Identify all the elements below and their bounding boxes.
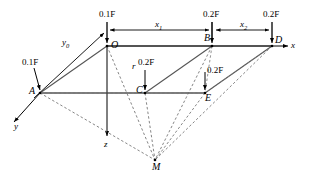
y-axis bbox=[14, 93, 40, 122]
point-label-D: D bbox=[275, 35, 282, 45]
dimension-label-x2-sub: 2 bbox=[244, 24, 247, 31]
depth-edge-group bbox=[40, 46, 272, 93]
apex-line-E-M bbox=[155, 93, 205, 160]
dimension-label-y0: y0 bbox=[62, 38, 69, 49]
node-dot-O bbox=[106, 45, 109, 48]
node-dot-C bbox=[144, 92, 147, 95]
load-arrow-group bbox=[34, 22, 272, 90]
axis-label-z: z bbox=[104, 140, 108, 149]
point-label-B: B bbox=[204, 33, 210, 43]
dimension-label-x1-sub: 1 bbox=[159, 24, 162, 31]
node-dot-group bbox=[39, 45, 274, 162]
point-label-A: A bbox=[29, 86, 35, 96]
load-diagram-figure: O B D A C E M 0.1F 0.2F 0.2F 0.1F 0.2F 0… bbox=[0, 0, 309, 177]
apex-line-B-M bbox=[155, 46, 212, 160]
load-label-O: 0.1F bbox=[99, 10, 115, 19]
dimension-label-y0-sub: 0 bbox=[66, 42, 69, 49]
axis-label-y: y bbox=[14, 122, 18, 131]
load-label-E: 0.2F bbox=[207, 66, 223, 75]
node-dot-B bbox=[211, 45, 214, 48]
point-label-M: M bbox=[152, 162, 160, 172]
point-label-E: E bbox=[205, 93, 211, 103]
load-label-A: 0.1F bbox=[22, 58, 38, 67]
apex-line-group bbox=[40, 46, 272, 160]
point-label-C: C bbox=[136, 85, 143, 95]
apex-line-C-M bbox=[145, 93, 155, 160]
load-label-D: 0.2F bbox=[263, 10, 279, 19]
apex-line-D-M bbox=[155, 46, 272, 160]
point-label-O: O bbox=[111, 40, 118, 50]
dimension-label-x1: x1 bbox=[155, 20, 162, 31]
node-dot-A bbox=[39, 92, 42, 95]
load-label-C: 0.2F bbox=[138, 58, 154, 67]
apex-line-A-M bbox=[40, 93, 155, 160]
edge-A-O bbox=[40, 46, 107, 93]
load-label-B: 0.2F bbox=[203, 10, 219, 19]
edge-C-B bbox=[145, 46, 212, 93]
radius-label-r: r bbox=[132, 62, 136, 71]
dimension-label-x2: x2 bbox=[240, 20, 247, 31]
axis-label-x: x bbox=[291, 41, 295, 50]
node-dot-D bbox=[271, 45, 274, 48]
